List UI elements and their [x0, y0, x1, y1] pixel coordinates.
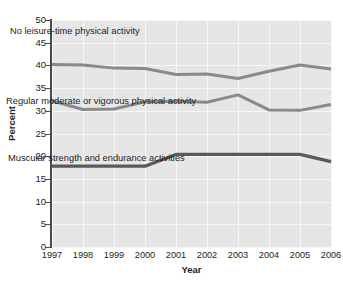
y-tick-mark — [45, 111, 50, 112]
y-tick-label: 25 — [6, 129, 46, 139]
y-tick-mark — [45, 202, 50, 203]
y-tick-label: 35 — [6, 83, 46, 93]
series-label-regular-moderate-vigorous: Regular moderate or vigorous physical ac… — [6, 96, 196, 106]
y-tick-mark — [45, 43, 50, 44]
y-tick-label: 50 — [6, 15, 46, 25]
series-label-no-leisure-time: No leisure-time physical activity — [10, 26, 140, 36]
y-tick-mark — [45, 224, 50, 225]
y-tick-label: 10 — [6, 197, 46, 207]
y-tick-label: 5 — [6, 219, 46, 229]
y-tick-mark — [45, 134, 50, 135]
line-chart: Percent 50454035302520151050 19971998199… — [0, 0, 343, 284]
y-tick-mark — [45, 20, 50, 21]
gridline-vertical — [331, 20, 332, 247]
series-line-0 — [52, 64, 331, 78]
series-lines — [52, 20, 331, 247]
y-tick-mark — [45, 247, 50, 248]
y-tick-mark — [45, 88, 50, 89]
y-tick-label: 40 — [6, 60, 46, 70]
y-tick-label: 30 — [6, 106, 46, 116]
y-tick-mark — [45, 65, 50, 66]
x-axis-title: Year — [52, 264, 331, 275]
y-tick-label: 45 — [6, 38, 46, 48]
plot-area — [52, 20, 331, 247]
y-tick-mark — [45, 179, 50, 180]
y-tick-label: 15 — [6, 174, 46, 184]
x-tick-label: 2006 — [311, 250, 343, 260]
series-label-muscular-strength: Muscular strength and endurance activiti… — [8, 153, 185, 163]
gridline-horizontal — [52, 247, 331, 248]
